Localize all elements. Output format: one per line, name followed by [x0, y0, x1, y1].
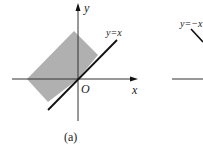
x-axis-label: x [131, 83, 138, 97]
line-label-a: y=x [105, 27, 122, 38]
line-y-equals-neg-x [191, 29, 203, 42]
y-axis-arrow-icon [76, 3, 81, 11]
line-label-b: y=−x [179, 18, 203, 29]
caption-a: (a) [64, 130, 77, 144]
y-axis-label: y [83, 1, 90, 15]
x-axis-arrow-icon [130, 77, 138, 82]
figure-canvas: y x O y=x (a) y=−x [0, 0, 203, 161]
origin-label: O [81, 82, 90, 96]
